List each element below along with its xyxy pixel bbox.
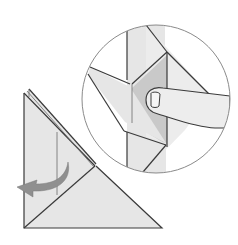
- detail-inset: [82, 20, 230, 180]
- fingernail: [151, 92, 160, 107]
- origami-diagram: .paper { fill: #e6e6e6; stroke: none; } …: [0, 0, 238, 245]
